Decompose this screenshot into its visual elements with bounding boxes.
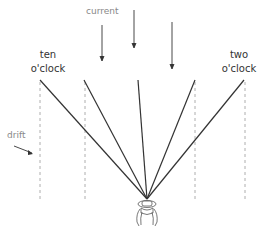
current-label: current (86, 6, 119, 16)
cast-line-two-oclock (147, 80, 244, 199)
ten-label: ten (40, 49, 56, 60)
casting-fan-diagram: current drift ten o'clock two o'clock (0, 0, 263, 240)
drift-label: drift (7, 130, 26, 140)
drift-arrow-icon (14, 146, 33, 155)
oclock-label-right: o'clock (222, 63, 257, 74)
angler-figure-icon (137, 201, 157, 227)
current-arrows (100, 10, 174, 69)
cast-line-center (138, 80, 147, 199)
two-label: two (230, 49, 248, 60)
cast-line (147, 80, 195, 199)
oclock-label-left: o'clock (31, 63, 66, 74)
cast-lines (40, 80, 244, 199)
